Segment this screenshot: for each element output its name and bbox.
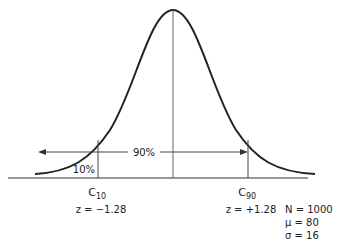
normal-curve-diagram: 90% 10% C 10 z = −1.28 C 90 z = +1.28 N … (0, 0, 347, 240)
param-n: N = 1000 (285, 204, 333, 215)
label-90-percent: 90% (133, 147, 155, 158)
c10-z-value: z = −1.28 (76, 204, 127, 215)
c90-subscript: 90 (246, 192, 256, 201)
param-sigma: σ = 16 (285, 230, 319, 240)
c10-subscript: 10 (96, 192, 106, 201)
param-mu: μ = 80 (285, 217, 319, 228)
c90-z-value: z = +1.28 (226, 204, 277, 215)
arrow-right-head-icon (240, 149, 248, 155)
label-10-percent: 10% (73, 164, 95, 175)
arrow-left-head-icon (38, 149, 46, 155)
bell-curve (35, 10, 315, 174)
